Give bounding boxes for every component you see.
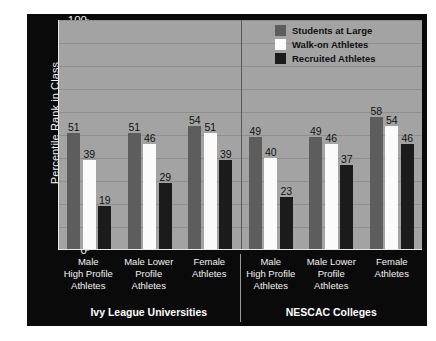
x-category-line: Profile [119, 268, 180, 280]
bar-walkon: 46 [143, 144, 156, 250]
bar-value-label: 49 [310, 125, 322, 137]
chart-figure: Percentile Rank in Class 100908070605040… [27, 14, 427, 326]
bar-recruited: 23 [280, 197, 293, 250]
bar-value-label: 54 [386, 114, 398, 126]
x-category-line: High Profile [241, 268, 302, 280]
bar-value-label: 40 [265, 146, 277, 158]
x-category-line: Athletes [179, 268, 240, 280]
group-title: Ivy League Universities [58, 306, 240, 318]
bar-value-label: 29 [159, 171, 171, 183]
legend-swatch-students [275, 25, 286, 36]
bar-value-label: 46 [325, 132, 337, 144]
bar-recruited: 29 [159, 183, 172, 250]
bar-value-label: 46 [144, 132, 156, 144]
x-category-line: Profile [301, 268, 362, 280]
x-category-line: Athletes [301, 280, 362, 292]
legend-item: Walk-on Athletes [275, 37, 376, 51]
x-category-line: High Profile [58, 268, 119, 280]
x-category-line: Female [362, 256, 423, 268]
bar-recruited: 37 [340, 165, 353, 250]
x-axis-labels: MaleHigh ProfileAthletesMale LowerProfil… [58, 254, 422, 322]
bar-students: 49 [309, 137, 322, 250]
legend-label: Students at Large [292, 25, 372, 36]
bar-value-label: 39 [220, 148, 232, 160]
x-category-line: Athletes [58, 280, 119, 292]
x-axis-baseline [59, 249, 422, 250]
x-category-line: Male [241, 256, 302, 268]
bar-value-label: 51 [204, 121, 216, 133]
bar-students: 51 [128, 133, 141, 250]
bar-value-label: 23 [280, 185, 292, 197]
bar-value-label: 37 [341, 153, 353, 165]
bar-value-label: 39 [83, 148, 95, 160]
group-title: NESCAC Colleges [241, 306, 423, 318]
chart-legend: Students at LargeWalk-on AthletesRecruit… [275, 23, 376, 65]
x-category-line: Female [179, 256, 240, 268]
x-category-line: Athletes [362, 268, 423, 280]
bar-students: 54 [188, 126, 201, 250]
bar-value-label: 49 [249, 125, 261, 137]
x-category-line: Athletes [241, 280, 302, 292]
bar-value-label: 46 [401, 132, 413, 144]
x-category-line: Athletes [119, 280, 180, 292]
bar-walkon: 40 [264, 158, 277, 250]
x-category-line: Male Lower [119, 256, 180, 268]
x-category-line: Male Lower [301, 256, 362, 268]
bar-walkon: 46 [325, 144, 338, 250]
x-axis-group: MaleHigh ProfileAthletesMale LowerProfil… [58, 254, 240, 322]
legend-swatch-recruited [275, 53, 286, 64]
legend-swatch-walkon [275, 39, 286, 50]
legend-item: Students at Large [275, 23, 376, 37]
legend-label: Recruited Athletes [292, 53, 376, 64]
bar-walkon: 39 [83, 160, 96, 250]
x-category-line: Male [58, 256, 119, 268]
bar-value-label: 58 [370, 105, 382, 117]
legend-label: Walk-on Athletes [292, 39, 368, 50]
x-axis-group: MaleHigh ProfileAthletesMale LowerProfil… [240, 254, 423, 322]
bar-walkon: 54 [385, 126, 398, 250]
bar-students: 51 [67, 133, 80, 250]
bar-recruited: 46 [401, 144, 414, 250]
bar-walkon: 51 [204, 133, 217, 250]
bar-students: 58 [370, 117, 383, 250]
bar-recruited: 19 [98, 206, 111, 250]
bar-recruited: 39 [219, 160, 232, 250]
bar-value-label: 19 [99, 194, 111, 206]
bar-students: 49 [249, 137, 262, 250]
group-divider [241, 20, 242, 250]
bar-value-label: 51 [68, 121, 80, 133]
bar-value-label: 54 [189, 114, 201, 126]
bar-value-label: 51 [128, 121, 140, 133]
legend-item: Recruited Athletes [275, 51, 376, 65]
